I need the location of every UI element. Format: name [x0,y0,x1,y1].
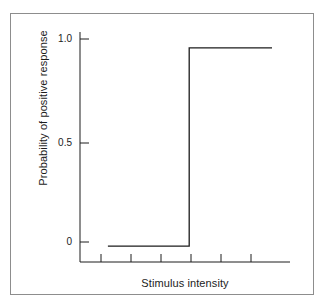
figure-canvas: 0 0.5 1.0 Probability of positive respon… [0,0,326,308]
step-function-curve [108,48,272,246]
y-axis-title: Probability of positive response [34,0,52,262]
x-axis-title: Stimulus intensity [80,277,290,289]
